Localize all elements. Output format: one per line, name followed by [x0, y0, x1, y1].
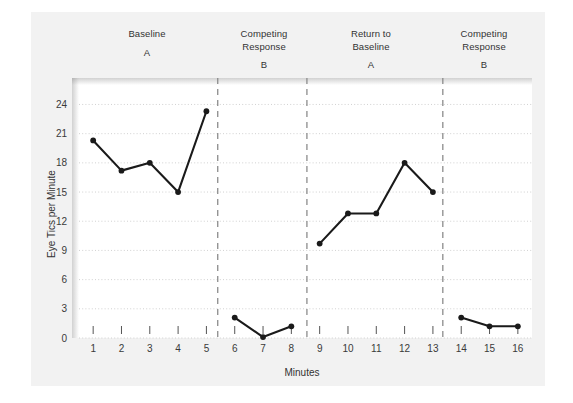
x-axis-title: Minutes: [284, 367, 319, 378]
y-tick-label: 0: [61, 333, 67, 344]
x-tick-label: 8: [289, 343, 295, 354]
y-axis-tick-labels: 03691215182124: [56, 99, 68, 344]
x-tick-label: 3: [147, 343, 153, 354]
data-point: [90, 138, 96, 144]
x-axis-tick-labels: 12345678910111213141516: [90, 343, 523, 354]
x-tick-label: 1: [90, 343, 96, 354]
x-tick-label: 11: [371, 343, 382, 354]
y-tick-label: 21: [56, 128, 68, 139]
data-series-layer: [90, 108, 520, 340]
x-tick-label: 13: [427, 343, 439, 354]
series-line: [320, 163, 433, 244]
data-point: [487, 323, 493, 329]
data-point: [402, 160, 408, 166]
data-point: [317, 241, 323, 247]
x-tick-label: 14: [456, 343, 468, 354]
x-tick-label: 6: [232, 343, 238, 354]
x-tick-label: 16: [512, 343, 524, 354]
data-point: [147, 160, 153, 166]
data-point: [232, 315, 238, 321]
x-tick-label: 2: [119, 343, 125, 354]
y-tick-label: 12: [56, 216, 68, 227]
data-point: [204, 108, 210, 114]
y-tick-label: 24: [56, 99, 68, 110]
data-point: [458, 315, 464, 321]
line-chart: 03691215182124 12345678910111213141516 E…: [0, 0, 573, 403]
series-line: [93, 111, 206, 192]
data-point: [260, 334, 266, 340]
data-point: [119, 168, 125, 174]
y-tick-label: 18: [56, 157, 68, 168]
x-tick-label: 9: [317, 343, 323, 354]
gridlines: [79, 104, 532, 338]
figure-container: Baseline A Competing Response B Return t…: [0, 0, 573, 403]
y-tick-label: 9: [61, 245, 67, 256]
x-tick-label: 10: [342, 343, 354, 354]
x-axis-ticks: [93, 326, 518, 334]
x-tick-label: 7: [260, 343, 266, 354]
y-tick-label: 6: [61, 274, 67, 285]
x-tick-label: 4: [175, 343, 181, 354]
data-point: [345, 211, 351, 217]
x-tick-label: 5: [204, 343, 210, 354]
x-tick-label: 12: [399, 343, 411, 354]
y-tick-label: 15: [56, 187, 68, 198]
data-point: [175, 189, 181, 195]
data-point: [373, 211, 379, 217]
x-tick-label: 15: [484, 343, 496, 354]
y-axis-title: Eye Tics per Minute: [46, 170, 57, 258]
phase-divider-lines: [218, 78, 443, 341]
data-point: [288, 323, 294, 329]
data-point: [430, 189, 436, 195]
y-tick-label: 3: [61, 303, 67, 314]
data-point: [515, 323, 521, 329]
